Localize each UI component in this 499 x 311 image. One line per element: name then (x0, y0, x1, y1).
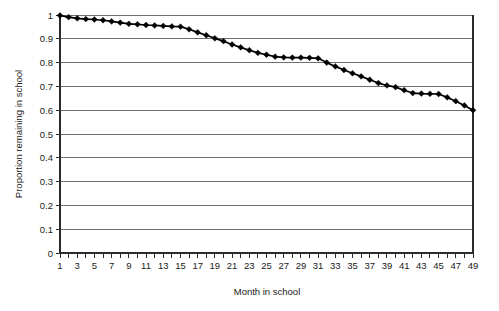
data-point-marker (126, 21, 132, 27)
data-point-marker (203, 32, 209, 38)
x-axis-title: Month in school (234, 286, 301, 297)
data-point-marker (410, 90, 416, 96)
data-point-marker (453, 98, 459, 104)
data-point-marker (358, 74, 364, 80)
x-tick-label: 15 (175, 260, 186, 271)
data-point-marker (393, 84, 399, 90)
x-tick-label: 19 (210, 260, 221, 271)
data-point-marker (160, 23, 166, 29)
data-point-marker (427, 91, 433, 97)
data-point-marker (117, 20, 123, 26)
x-tick-label: 49 (468, 260, 479, 271)
y-axis-tick-labels: 00.10.20.30.40.50.60.70.80.91 (40, 10, 53, 259)
data-point-marker (298, 55, 304, 61)
data-point-marker (109, 19, 115, 25)
data-point-marker (212, 35, 218, 41)
x-tick-label: 47 (451, 260, 462, 271)
x-tick-label: 3 (75, 260, 80, 271)
x-tick-label: 21 (227, 260, 238, 271)
y-tick-label: 0.4 (40, 152, 53, 163)
y-tick-label: 0.1 (40, 224, 53, 235)
x-tick-label: 17 (192, 260, 203, 271)
x-tick-label: 35 (347, 260, 358, 271)
data-point-marker (83, 16, 89, 22)
data-point-marker (307, 55, 313, 61)
x-tick-label: 25 (261, 260, 272, 271)
data-point-marker (281, 54, 287, 60)
data-point-marker (246, 47, 252, 53)
data-point-marker (143, 22, 149, 28)
data-point-marker (350, 70, 356, 76)
x-tick-label: 27 (278, 260, 289, 271)
x-tick-label: 41 (399, 260, 410, 271)
x-tick-label: 43 (416, 260, 427, 271)
data-point-marker (418, 91, 424, 97)
chart-container: 00.10.20.30.40.50.60.70.80.91 1357911131… (0, 0, 499, 311)
x-tick-label: 1 (57, 260, 62, 271)
gridlines (60, 15, 473, 253)
x-tick-label: 11 (141, 260, 151, 271)
data-point-marker (186, 26, 192, 32)
line-chart: 00.10.20.30.40.50.60.70.80.91 1357911131… (0, 0, 499, 311)
data-point-marker (436, 91, 442, 97)
x-tick-label: 45 (433, 260, 444, 271)
data-point-marker (169, 24, 175, 30)
data-point-marker (152, 23, 158, 29)
data-point-marker (238, 44, 244, 50)
data-point-marker (264, 52, 270, 58)
data-point-marker (375, 80, 381, 86)
data-point-marker (100, 17, 106, 23)
data-point-marker (332, 64, 338, 70)
x-tick-label: 5 (92, 260, 97, 271)
x-tick-label: 31 (313, 260, 324, 271)
data-point-marker (341, 67, 347, 73)
y-tick-label: 0 (48, 248, 53, 259)
data-point-marker (315, 55, 321, 61)
y-tick-label: 0.3 (40, 176, 53, 187)
x-tick-label: 37 (364, 260, 375, 271)
x-tick-label: 29 (296, 260, 307, 271)
x-tick-label: 33 (330, 260, 341, 271)
data-point-marker (229, 42, 235, 48)
data-point-marker (57, 13, 63, 19)
data-point-marker (195, 29, 201, 35)
y-axis-title: Proportion remaining in school (13, 70, 24, 198)
x-tick-label: 13 (158, 260, 169, 271)
y-tick-label: 1 (48, 10, 53, 21)
x-axis-ticks (60, 253, 473, 258)
y-tick-label: 0.2 (40, 200, 53, 211)
data-point-marker (272, 54, 278, 60)
data-point-marker (384, 83, 390, 89)
y-tick-label: 0.9 (40, 33, 53, 44)
data-point-marker (367, 77, 373, 83)
y-tick-label: 0.7 (40, 81, 53, 92)
x-tick-label: 9 (126, 260, 131, 271)
x-tick-label: 7 (109, 260, 114, 271)
y-tick-label: 0.6 (40, 105, 53, 116)
y-tick-label: 0.8 (40, 57, 53, 68)
data-point-marker (324, 60, 330, 66)
x-tick-label: 39 (382, 260, 393, 271)
x-tick-label: 23 (244, 260, 255, 271)
y-tick-label: 0.5 (40, 129, 53, 140)
x-axis-tick-labels: 1357911131517192123252729313335373941434… (57, 260, 478, 271)
data-point-marker (289, 55, 295, 61)
data-point-marker (135, 21, 141, 27)
data-point-marker (74, 15, 80, 21)
data-point-marker (255, 50, 261, 56)
data-point-marker (178, 24, 184, 30)
data-point-marker (92, 17, 98, 23)
data-point-marker (444, 94, 450, 100)
data-point-marker (401, 87, 407, 93)
